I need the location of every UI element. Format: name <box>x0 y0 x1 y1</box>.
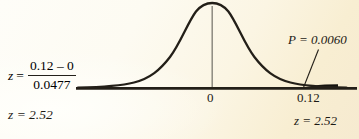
formula-equals: = <box>16 68 24 84</box>
x-axis-tick-label-center: 0 <box>207 91 214 104</box>
tail-z-score-label: z = 2.52 <box>294 114 337 127</box>
formula-variable: z <box>8 68 13 84</box>
formula-denominator: 0.0477 <box>31 76 72 93</box>
probability-label: P = 0.0060 <box>288 33 347 46</box>
formula-numerator: 0.12 – 0 <box>28 58 76 75</box>
statistics-figure: z = 0.12 – 0 0.0477 z = 2.52 P = 0.0060 … <box>0 0 359 139</box>
z-score-formula: z = 0.12 – 0 0.0477 <box>8 58 76 93</box>
probability-leader-line <box>304 50 319 88</box>
formula-fraction: 0.12 – 0 0.0477 <box>28 58 76 93</box>
x-axis-tick-label-tail: 0.12 <box>297 91 320 104</box>
z-score-result: z = 2.52 <box>8 108 53 122</box>
